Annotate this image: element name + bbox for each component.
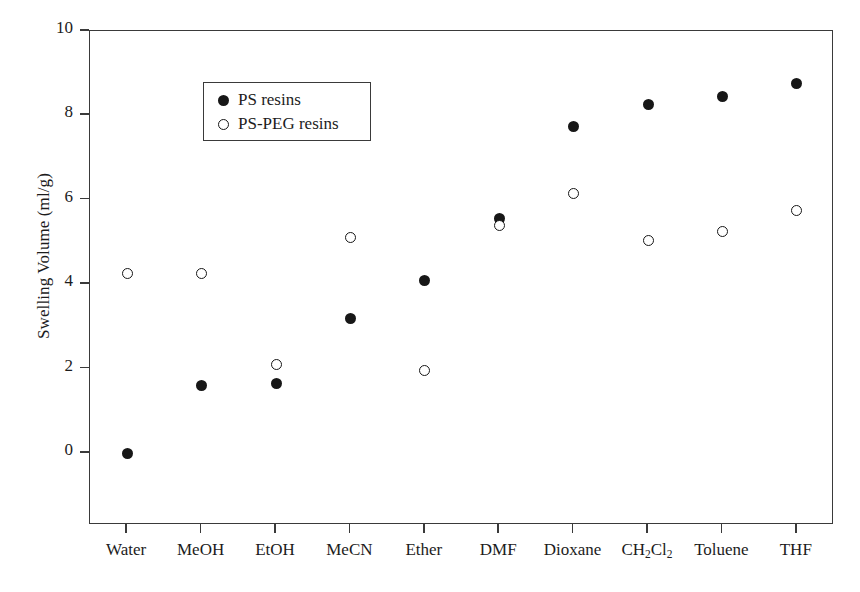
data-point xyxy=(345,313,356,324)
data-point xyxy=(271,378,282,389)
swelling-volume-scatter-chart: Swelling Volume (ml/g) 0246810 PS resins… xyxy=(0,0,860,592)
x-tick-mark xyxy=(423,524,425,533)
x-tick-mark xyxy=(125,524,127,533)
y-tick-mark xyxy=(80,29,89,31)
data-point xyxy=(568,188,579,199)
x-tick-mark xyxy=(646,524,648,533)
y-axis-title: Swelling Volume (ml/g) xyxy=(34,46,54,466)
legend-entry-ps-peg-resins: PS-PEG resins xyxy=(218,112,370,136)
x-tick-mark xyxy=(795,524,797,533)
filled-circle-icon xyxy=(218,95,229,106)
y-tick-mark xyxy=(80,113,89,115)
data-point xyxy=(196,268,207,279)
data-point xyxy=(122,448,133,459)
data-point xyxy=(568,121,579,132)
legend-entry-label: PS-PEG resins xyxy=(238,114,339,134)
y-tick-label: 6 xyxy=(65,187,74,207)
data-point xyxy=(643,235,654,246)
chart-legend: PS resins PS-PEG resins xyxy=(203,82,371,141)
y-tick-mark xyxy=(80,282,89,284)
data-point xyxy=(494,220,505,231)
data-point xyxy=(419,365,430,376)
y-tick-mark xyxy=(80,367,89,369)
y-tick-label: 8 xyxy=(65,102,74,122)
x-tick-mark xyxy=(721,524,723,533)
legend-entry-label: PS resins xyxy=(238,90,301,110)
data-point xyxy=(345,232,356,243)
data-point xyxy=(717,91,728,102)
y-tick-label: 10 xyxy=(56,18,73,38)
open-circle-icon xyxy=(218,119,229,130)
x-tick-mark xyxy=(497,524,499,533)
data-point xyxy=(271,359,282,370)
data-point xyxy=(791,78,802,89)
y-tick-label: 0 xyxy=(65,440,74,460)
data-point xyxy=(791,205,802,216)
legend-entry-ps-resins: PS resins xyxy=(218,88,370,112)
x-tick-mark xyxy=(274,524,276,533)
y-tick-mark xyxy=(80,198,89,200)
data-point xyxy=(196,380,207,391)
y-tick-mark xyxy=(80,451,89,453)
data-point xyxy=(122,268,133,279)
y-tick-label: 4 xyxy=(65,271,74,291)
x-tick-label: THF xyxy=(736,540,856,560)
x-tick-mark xyxy=(349,524,351,533)
data-point xyxy=(419,275,430,286)
data-point xyxy=(717,226,728,237)
y-tick-label: 2 xyxy=(65,356,74,376)
x-tick-mark xyxy=(200,524,202,533)
plot-area: PS resins PS-PEG resins xyxy=(89,30,833,524)
x-tick-mark xyxy=(572,524,574,533)
data-point xyxy=(643,99,654,110)
